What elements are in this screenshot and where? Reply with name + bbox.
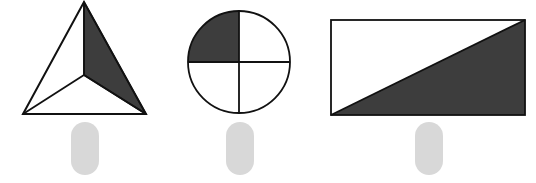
triangle-divider-left (23, 75, 84, 114)
answer-box-circle[interactable] (226, 122, 254, 175)
answer-box-triangle[interactable] (71, 122, 99, 175)
rectangle-figure (331, 20, 525, 115)
circle-figure (188, 11, 290, 113)
triangle-figure (23, 2, 146, 114)
answer-box-rectangle[interactable] (415, 122, 443, 175)
